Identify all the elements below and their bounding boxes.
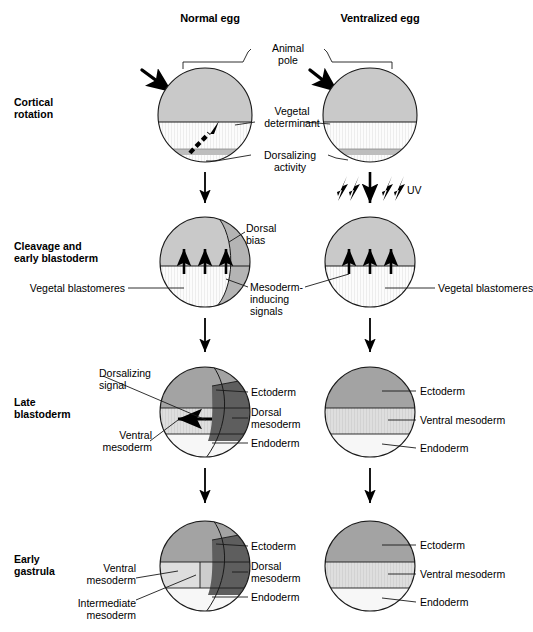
annotation-endoderm-ventralized-lb: Endoderm	[420, 442, 468, 454]
annotation-animal-pole-line-1: Animal	[248, 42, 328, 54]
annotation-dorsal-mesoderm-line-2: mesoderm	[251, 572, 301, 584]
annotation-mesoderm-inducing-line-3: signals	[250, 305, 303, 317]
egg-normal-cortical-rotation	[155, 65, 255, 162]
annotation-vegetal-determinant-line-2: determinant	[248, 117, 336, 129]
annotation-uv: UV	[407, 184, 422, 196]
annotation-dorsalizing-activity-line-2: activity	[250, 161, 330, 173]
annotation-dorsal-mesoderm-line-2: mesoderm	[251, 418, 301, 430]
annotation-ventral-mesoderm-ventralized-lb: Ventral mesoderm	[420, 414, 505, 426]
ventral-mesoderm-normal-eg	[155, 562, 200, 588]
ventral-mesoderm-ventralized-lb	[320, 408, 420, 434]
annotation-vegetal-determinant: Vegetal determinant	[248, 105, 336, 129]
ectoderm-ventralized-eg	[320, 518, 420, 562]
annotation-dorsal-mesoderm-line-1: Dorsal	[251, 406, 301, 418]
annotation-dorsal-bias-line-2: bias	[246, 234, 276, 246]
annotation-dorsal-mesoderm-lb: Dorsal mesoderm	[251, 406, 301, 430]
annotation-endoderm-ventralized-eg: Endoderm	[420, 596, 468, 608]
ectoderm-ventralized-lb	[320, 364, 420, 408]
annotation-ventral-mesoderm-line-1: Ventral	[74, 562, 136, 574]
annotation-uv-text: UV	[407, 184, 422, 196]
annotation-ventral-mesoderm-eg: Ventral mesoderm	[74, 562, 136, 586]
annotation-endoderm-normal-eg: Endoderm	[251, 591, 299, 603]
annotation-ectoderm-ventralized-lb: Ectoderm	[420, 385, 465, 397]
annotation-ventral-mesoderm-line-1: Ventral	[90, 429, 152, 441]
annotation-vegetal-blastomeres-right: Vegetal blastomeres	[438, 282, 533, 294]
annotation-intermediate-mesoderm-eg: Intermediate mesoderm	[60, 597, 136, 621]
embryo-ventralized-late-blastoderm	[320, 364, 420, 462]
annotation-intermediate-mesoderm-line-2: mesoderm	[60, 609, 136, 621]
dorsalizing-activity-band-normal	[155, 149, 255, 155]
annotation-dorsalizing-activity-line-1: Dorsalizing	[250, 149, 330, 161]
annotation-animal-pole-line-2: pole	[248, 54, 328, 66]
annotation-vegetal-determinant-line-1: Vegetal	[248, 105, 336, 117]
annotation-ectoderm-normal-eg: Ectoderm	[251, 540, 296, 552]
embryo-normal-late-blastoderm	[155, 364, 255, 462]
dorsalizing-activity-band-ventralized	[320, 149, 420, 155]
annotation-ventral-mesoderm-line-2: mesoderm	[74, 574, 136, 586]
ventral-mesoderm-ventralized-eg	[320, 562, 420, 588]
endoderm-ventralized-lb	[320, 434, 420, 462]
annotation-mesoderm-inducing-line-2: inducing	[250, 293, 303, 305]
dorsal-mesoderm-normal-lb	[208, 378, 255, 441]
annotation-ectoderm-normal-lb: Ectoderm	[251, 386, 296, 398]
annotation-mesoderm-inducing-line-1: Mesoderm-	[250, 281, 303, 293]
embryo-ventralized-early-gastrula	[320, 518, 420, 616]
annotation-dorsal-bias-line-1: Dorsal	[246, 222, 276, 234]
annotation-ventral-mesoderm-line-2: mesoderm	[90, 441, 152, 453]
annotation-dorsal-mesoderm-line-1: Dorsal	[251, 560, 301, 572]
embryo-normal-early-gastrula	[155, 518, 255, 616]
annotation-animal-pole: Animal pole	[248, 42, 328, 66]
annotation-ectoderm-ventralized-eg: Ectoderm	[420, 539, 465, 551]
egg-normal-cleavage	[155, 214, 258, 311]
endoderm-ventralized-eg	[320, 588, 420, 616]
annotation-dorsalizing-activity: Dorsalizing activity	[250, 149, 330, 173]
annotation-intermediate-mesoderm-line-1: Intermediate	[60, 597, 136, 609]
annotation-mesoderm-inducing-signals: Mesoderm- inducing signals	[250, 281, 303, 317]
annotation-dorsalizing-signal: Dorsalizing signal	[99, 367, 151, 391]
dorsal-mesoderm-normal-eg	[208, 532, 255, 595]
annotation-dorsalizing-signal-line-2: signal	[99, 379, 151, 391]
annotation-ventral-mesoderm-ventralized-eg: Ventral mesoderm	[420, 568, 505, 580]
annotation-endoderm-normal-lb: Endoderm	[251, 437, 299, 449]
annotation-dorsal-mesoderm-eg: Dorsal mesoderm	[251, 560, 301, 584]
annotation-dorsalizing-signal-line-1: Dorsalizing	[99, 367, 151, 379]
annotation-vegetal-blastomeres-left: Vegetal blastomeres	[8, 282, 125, 294]
annotation-ventral-mesoderm-lb: Ventral mesoderm	[90, 429, 152, 453]
egg-ventralized-cleavage	[320, 214, 420, 311]
annotation-dorsal-bias: Dorsal bias	[246, 222, 276, 246]
